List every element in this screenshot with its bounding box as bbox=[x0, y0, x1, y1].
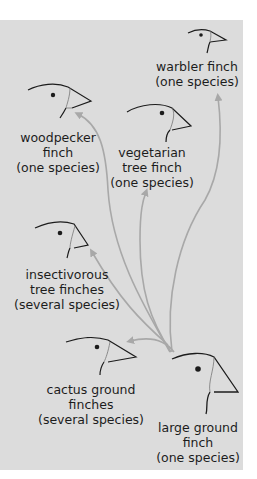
label-vegetarian-tree-finch: vegetarian tree finch (one species) bbox=[110, 145, 194, 190]
label-cactus-ground-finches: cactus ground finches (several species) bbox=[36, 382, 146, 427]
label-warbler-finch: warbler finch (one species) bbox=[154, 59, 240, 89]
label-line: (one species) bbox=[150, 450, 246, 465]
label-line: cactus ground bbox=[36, 382, 146, 397]
label-woodpecker-finch: woodpecker finch (one species) bbox=[16, 130, 100, 175]
label-line: tree finch bbox=[110, 160, 194, 175]
warbler-finch-head-icon bbox=[188, 30, 226, 53]
large-ground-finch-head-icon bbox=[172, 353, 238, 414]
label-line: (several species) bbox=[12, 297, 122, 312]
vegetarian-tree-finch-head-icon bbox=[127, 105, 191, 142]
woodpecker-finch-head-icon bbox=[28, 84, 91, 118]
arrow-to-warbler bbox=[170, 97, 220, 352]
label-line: finch bbox=[150, 435, 246, 450]
arrow-to-vegetarian bbox=[140, 192, 171, 352]
label-line: (one species) bbox=[154, 74, 240, 89]
label-line: finch bbox=[16, 145, 100, 160]
arrow-to-cactus bbox=[130, 339, 174, 352]
label-line: warbler finch bbox=[154, 59, 240, 74]
label-line: insectivorous bbox=[12, 267, 122, 282]
label-line: finches bbox=[36, 397, 146, 412]
label-line: tree finches bbox=[12, 282, 122, 297]
cactus-ground-finch-head-icon bbox=[66, 338, 136, 375]
label-large-ground-finch: large ground finch (one species) bbox=[150, 420, 246, 465]
label-line: (one species) bbox=[16, 160, 100, 175]
insectivorous-tree-finch-head-icon bbox=[35, 222, 88, 258]
label-line: (one species) bbox=[110, 175, 194, 190]
label-insectivorous-tree-finches: insectivorous tree finches (several spec… bbox=[12, 267, 122, 312]
label-line: vegetarian bbox=[110, 145, 194, 160]
label-line: (several species) bbox=[36, 412, 146, 427]
label-line: woodpecker bbox=[16, 130, 100, 145]
label-line: large ground bbox=[150, 420, 246, 435]
